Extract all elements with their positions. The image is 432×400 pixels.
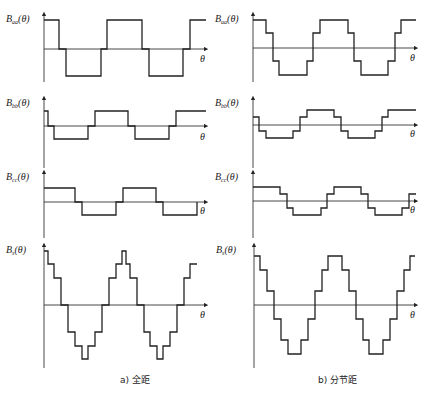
waveform-panel-aa-full: Baa(θ)θ: [6, 13, 206, 82]
waveform: [44, 111, 206, 139]
theta-label: θ: [200, 309, 205, 320]
theta-label: θ: [410, 128, 415, 139]
waveform-panel-s-short: Bs(θ)θ: [216, 244, 416, 368]
y-axis-label: Baa(θ): [6, 13, 30, 25]
waveform-panel-aa-short: Baa(θ)θ: [215, 13, 416, 82]
y-axis-label: Bbb(θ): [6, 97, 30, 109]
y-axis-label: Bs(θ): [216, 244, 237, 256]
y-axis-label: Baa(θ): [215, 13, 239, 25]
waveform: [253, 110, 416, 138]
waveform: [253, 20, 416, 75]
y-axis-label: Bs(θ): [6, 244, 27, 256]
theta-label: θ: [410, 52, 415, 63]
winding-flux-density-figure: Baa(θ)θBaa(θ)θBbb(θ)θBbb(θ)θBcc(θ)θBcc(θ…: [0, 0, 432, 400]
waveform-panel-cc-short: Bcc(θ)θ: [215, 171, 416, 238]
caption-full-pitch: a) 全距: [120, 373, 150, 386]
waveform-panel-bb-short: Bbb(θ)θ: [215, 97, 416, 168]
waveform: [44, 20, 206, 76]
theta-label: θ: [410, 204, 415, 215]
waveform-panel-cc-full: Bcc(θ)θ: [6, 171, 206, 238]
waveform: [44, 188, 197, 215]
theta-label: θ: [200, 131, 205, 142]
waveform-panel-bb-full: Bbb(θ)θ: [6, 97, 206, 168]
theta-label: θ: [200, 205, 205, 216]
caption-short-pitch: b) 分节距: [318, 373, 357, 386]
y-axis-label: Bbb(θ): [215, 97, 239, 109]
waveform-panel-s-full: Bs(θ)θ: [6, 244, 206, 368]
y-axis-label: Bcc(θ): [215, 171, 239, 183]
theta-label: θ: [200, 53, 205, 64]
y-axis-label: Bcc(θ): [6, 171, 30, 183]
theta-label: θ: [410, 309, 415, 320]
